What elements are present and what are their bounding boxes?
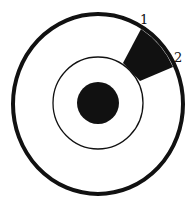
point-label-1: 1 <box>140 12 148 27</box>
ring-diagram: 1 2 <box>0 0 195 204</box>
center-disk <box>77 82 119 124</box>
point-label-2: 2 <box>174 50 182 65</box>
